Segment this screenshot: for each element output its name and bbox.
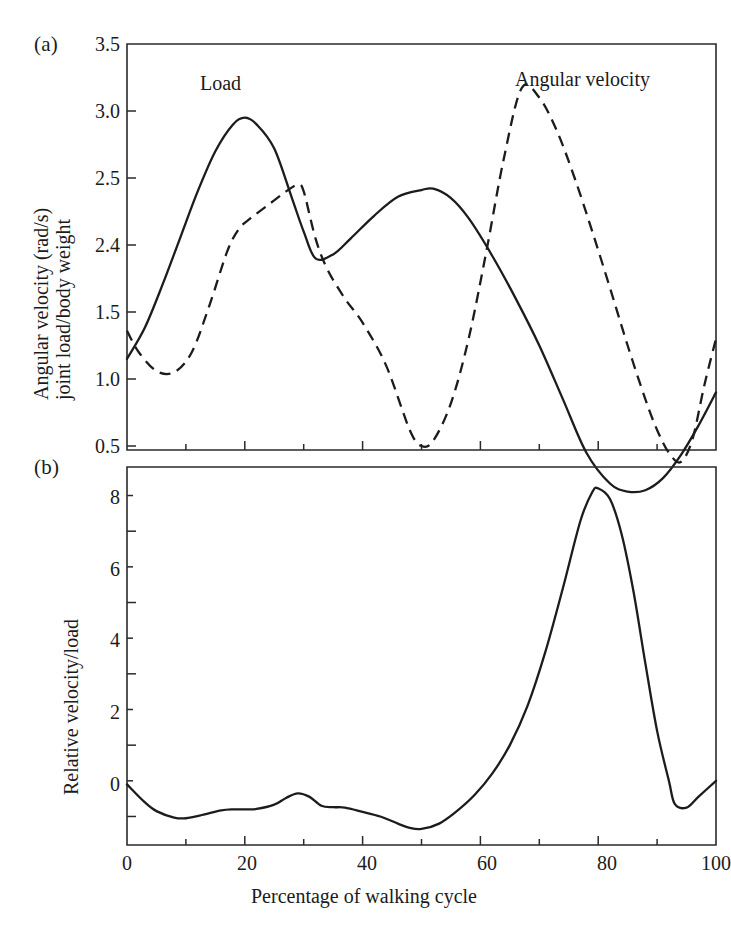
panel-a-ticks — [127, 111, 657, 450]
curve-load — [127, 118, 716, 493]
panel-a-axes — [127, 44, 716, 492]
curve-angular-velocity — [127, 84, 716, 462]
curve-relative-velocity-load — [127, 488, 716, 830]
panel-b-axes — [127, 467, 716, 845]
panel-b-ticks — [127, 496, 657, 845]
panel-a-frame — [127, 44, 716, 450]
panel-b-frame — [127, 467, 716, 845]
